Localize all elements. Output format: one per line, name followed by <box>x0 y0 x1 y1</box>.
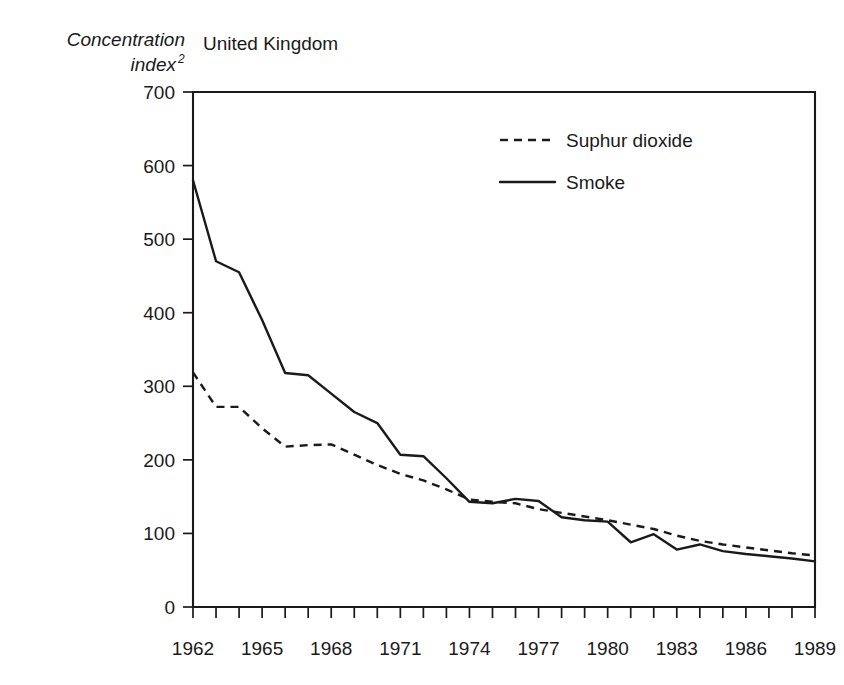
x-axis-ticks <box>193 607 815 618</box>
x-tick-label: 1974 <box>448 638 491 659</box>
data-series-group <box>193 180 815 561</box>
y-axis-caption: Concentration index 2 <box>67 29 185 75</box>
legend-label-smoke: Smoke <box>566 172 625 193</box>
chart-figure: Concentration index 2 United Kingdom 010… <box>0 0 844 685</box>
y-tick-label: 100 <box>143 523 175 544</box>
plot-frame <box>193 92 815 607</box>
y-axis-tick-labels: 0100200300400500600700 <box>143 82 175 618</box>
y-axis-ticks <box>183 92 193 607</box>
y-axis-caption-line1: Concentration <box>67 29 185 50</box>
x-tick-label: 1986 <box>725 638 767 659</box>
y-tick-label: 400 <box>143 303 175 324</box>
x-tick-label: 1971 <box>379 638 421 659</box>
x-tick-label: 1968 <box>310 638 352 659</box>
legend-label-suphur-dioxide: Suphur dioxide <box>566 130 693 151</box>
x-tick-label: 1983 <box>656 638 698 659</box>
y-tick-label: 500 <box>143 229 175 250</box>
x-tick-label: 1965 <box>241 638 283 659</box>
y-tick-label: 300 <box>143 376 175 397</box>
x-tick-label: 1962 <box>172 638 214 659</box>
series-line-suphur-dioxide <box>193 372 815 555</box>
y-axis-caption-superscript: 2 <box>177 52 185 66</box>
x-tick-label: 1989 <box>794 638 836 659</box>
y-tick-label: 0 <box>164 597 175 618</box>
panel-title: United Kingdom <box>203 33 338 54</box>
x-tick-label: 1977 <box>517 638 559 659</box>
y-tick-label: 200 <box>143 450 175 471</box>
line-chart: Concentration index 2 United Kingdom 010… <box>0 0 844 685</box>
x-tick-label: 1980 <box>587 638 629 659</box>
y-tick-label: 600 <box>143 156 175 177</box>
series-line-smoke <box>193 180 815 561</box>
chart-legend: Suphur dioxideSmoke <box>500 130 693 193</box>
x-axis-tick-labels: 1962196519681971197419771980198319861989 <box>172 638 836 659</box>
y-axis-caption-line2: index <box>131 54 178 75</box>
y-tick-label: 700 <box>143 82 175 103</box>
